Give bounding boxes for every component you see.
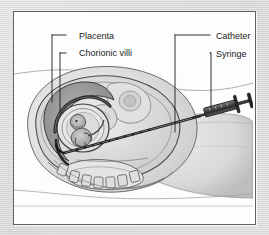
cvs-procedure-illustration xyxy=(14,12,253,222)
label-chorionic-villi: Chorionic villi xyxy=(79,48,132,58)
label-syringe: Syringe xyxy=(216,49,247,59)
label-catheter: Catheter xyxy=(216,31,251,41)
label-placenta: Placenta xyxy=(79,31,114,41)
leader-syringe xyxy=(210,53,211,108)
illustration-page: Placenta Chorionic villi Catheter Syring… xyxy=(0,0,269,235)
illustration-frame: Placenta Chorionic villi Catheter Syring… xyxy=(13,11,256,225)
